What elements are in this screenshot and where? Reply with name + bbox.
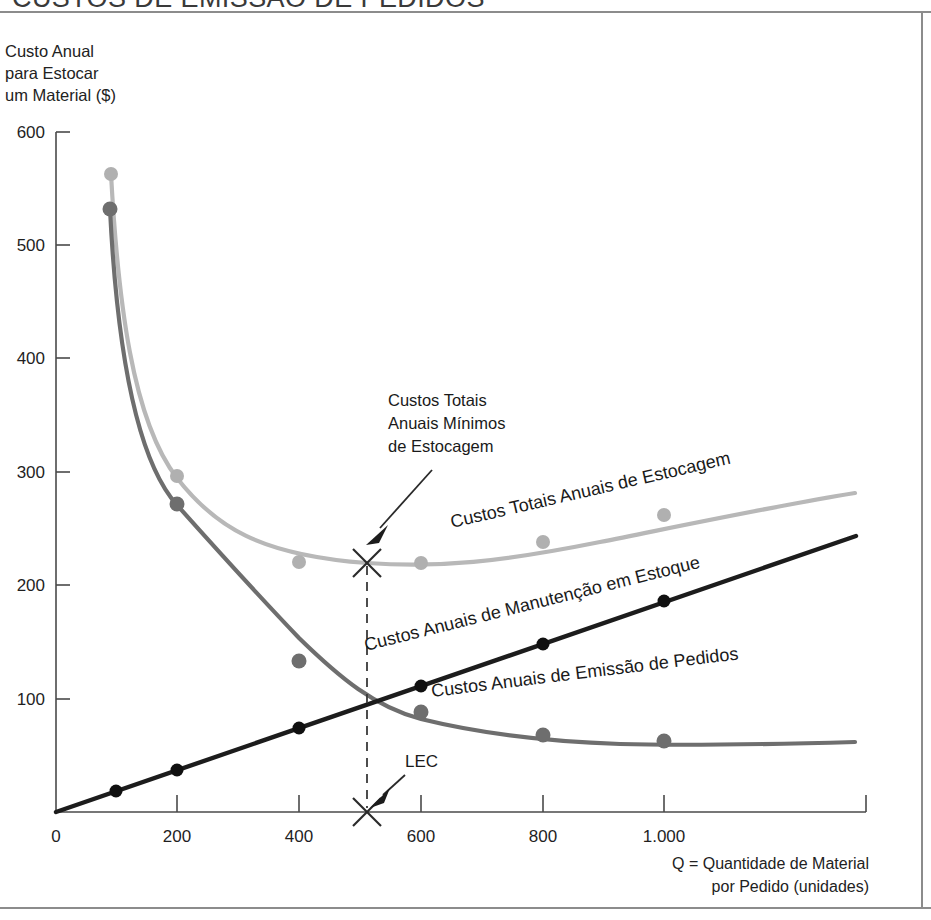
y-tick-label-500: 500 — [17, 236, 45, 255]
arrow-head-icon — [366, 525, 388, 545]
series-label-text: Custos Totais Anuais de Estocagem — [448, 448, 732, 532]
data-point — [537, 638, 550, 651]
data-point — [293, 722, 306, 735]
arrow-head-icon — [370, 788, 390, 808]
data-point — [536, 728, 551, 743]
series-label-text: Custos Anuais de Emissão de Pedidos — [430, 643, 739, 701]
data-point — [171, 764, 184, 777]
data-point — [414, 705, 429, 720]
data-point — [415, 680, 428, 693]
y-axis-ticks: 600 500 400 300 200 100 — [17, 123, 70, 709]
y-tick-label-100: 100 — [17, 690, 45, 709]
y-tick-label-300: 300 — [17, 463, 45, 482]
data-point — [103, 202, 118, 217]
data-point — [657, 508, 671, 522]
chart-plot-area: 600 500 400 300 200 100 0 200 400 600 80… — [0, 0, 931, 920]
data-point — [657, 734, 672, 749]
series-label-ordering-costs: Custos Anuais de Emissão de Pedidos — [430, 643, 739, 701]
series-annual-holding-costs — [56, 536, 856, 812]
series-label-text: Custos Anuais de Manutenção em Estoque — [362, 552, 702, 655]
y-tick-label-400: 400 — [17, 349, 45, 368]
x-tick-label-0: 0 — [51, 827, 60, 846]
x-tick-label-400: 400 — [285, 827, 313, 846]
series-label-total-costs: Custos Totais Anuais de Estocagem — [448, 448, 732, 532]
x-tick-label-600: 600 — [407, 827, 435, 846]
x-axis-ticks: 0 200 400 600 800 1.000 — [51, 795, 685, 846]
y-tick-label-600: 600 — [17, 123, 45, 142]
data-point — [104, 167, 118, 181]
data-point — [414, 556, 428, 570]
data-point — [658, 595, 671, 608]
data-point — [170, 469, 184, 483]
minimum-cost-leader — [366, 470, 432, 545]
x-tick-label-200: 200 — [163, 827, 191, 846]
data-point — [536, 535, 550, 549]
y-tick-label-200: 200 — [17, 576, 45, 595]
chart-page: CUSTOS DE EMISSÃO DE PEDIDOS Custo Anual… — [0, 0, 931, 920]
data-point — [292, 654, 307, 669]
eoq-leader — [370, 775, 405, 808]
x-tick-label-800: 800 — [529, 827, 557, 846]
x-tick-label-1000: 1.000 — [643, 827, 686, 846]
data-point — [292, 555, 306, 569]
data-point — [170, 497, 185, 512]
data-point — [110, 785, 123, 798]
series-label-holding-costs: Custos Anuais de Manutenção em Estoque — [362, 552, 702, 655]
